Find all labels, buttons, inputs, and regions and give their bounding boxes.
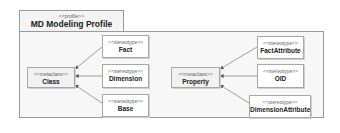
class-name: Base bbox=[103, 104, 148, 114]
class-name: Fact bbox=[103, 45, 148, 55]
base-extends-class-arrow bbox=[75, 85, 102, 103]
class-name: Property bbox=[172, 77, 219, 87]
stereotype-base[interactable]: <<stereotype>> Base bbox=[102, 94, 149, 117]
stereotype-dimensionattribute[interactable]: <<stereotype>> DimensionAttribute bbox=[249, 95, 311, 118]
class-name: Class bbox=[28, 77, 74, 87]
fact-extends-class-arrow bbox=[75, 47, 102, 69]
metaclass-class[interactable]: <<metaclass>> Class bbox=[27, 67, 75, 88]
metaclass-property[interactable]: <<metaclass>> Property bbox=[171, 67, 220, 88]
factattribute-extends-property-arrow bbox=[220, 47, 257, 69]
class-name: Dimension bbox=[103, 74, 148, 84]
dimensionattribute-extends-property-arrow bbox=[220, 85, 249, 103]
class-name: DimensionAttribute bbox=[250, 105, 310, 115]
class-name: OID bbox=[258, 74, 303, 84]
stereotype-dimension[interactable]: <<stereotype>> Dimension bbox=[102, 64, 149, 88]
stereotype-factattribute[interactable]: <<stereotype>> FactAttribute bbox=[257, 36, 304, 59]
class-name: FactAttribute bbox=[258, 46, 303, 56]
stereotype-oid[interactable]: <<stereotype>> OID bbox=[257, 64, 304, 88]
stereotype-fact[interactable]: <<stereotype>> Fact bbox=[102, 35, 149, 58]
